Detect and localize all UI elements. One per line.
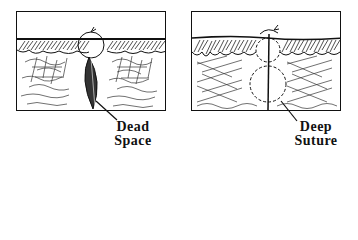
label-line: Suture	[286, 134, 346, 148]
label-deep-suture: Deep Suture	[286, 120, 346, 148]
label-line: Space	[108, 134, 158, 148]
label-line: Deep	[286, 120, 346, 134]
label-line: Dead	[108, 120, 158, 134]
leader-line-deep-suture	[281, 101, 297, 121]
leader-line-dead-space	[96, 101, 117, 120]
label-dead-space: Dead Space	[108, 120, 158, 148]
